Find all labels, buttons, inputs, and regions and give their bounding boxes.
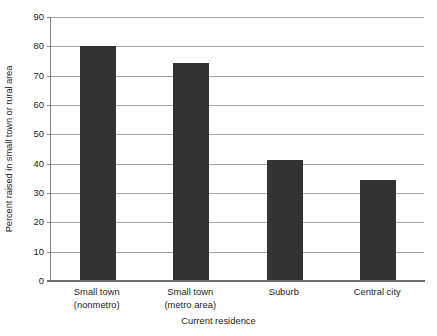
y-tick-label-40: 40	[14, 159, 44, 169]
y-tick-label-10: 10	[14, 247, 44, 257]
bar-3	[360, 180, 396, 281]
y-tick-mark-70	[47, 76, 51, 77]
y-tick-label-70: 70	[14, 71, 44, 81]
x-category-label-3: Central city	[331, 286, 425, 299]
y-tick-label-30: 30	[14, 188, 44, 198]
y-tick-mark-10	[47, 252, 51, 253]
x-category-line1: Small town	[167, 286, 213, 297]
y-tick-mark-20	[47, 222, 51, 223]
x-category-label-0: Small town(nonmetro)	[50, 286, 144, 311]
y-tick-label-50: 50	[14, 129, 44, 139]
x-category-label-1: Small town(metro area)	[144, 286, 238, 311]
y-tick-label-20: 20	[14, 217, 44, 227]
y-axis-title: Percent raised in small town or rural ar…	[2, 17, 16, 281]
y-tick-label-60: 60	[14, 100, 44, 110]
y-tick-mark-60	[47, 105, 51, 106]
y-tick-label-80: 80	[14, 41, 44, 51]
x-category-line2: (metro area)	[144, 299, 238, 312]
plot-top-border	[51, 17, 424, 18]
y-tick-mark-80	[47, 46, 51, 47]
x-category-label-2: Suburb	[237, 286, 331, 299]
x-category-line1: Small town	[74, 286, 120, 297]
bar-1	[173, 63, 209, 281]
x-axis-title: Current residence	[0, 315, 437, 326]
y-tick-mark-30	[47, 193, 51, 194]
y-tick-mark-40	[47, 164, 51, 165]
bar-2	[267, 160, 303, 281]
bar-0	[80, 46, 116, 281]
x-category-line1: Central city	[354, 286, 401, 297]
y-tick-mark-90	[47, 17, 51, 18]
y-tick-label-0: 0	[14, 276, 44, 286]
bar-chart: Percent raised in small town or rural ar…	[0, 0, 437, 336]
y-tick-label-90: 90	[14, 12, 44, 22]
x-category-line1: Suburb	[269, 286, 299, 297]
x-category-line2: (nonmetro)	[50, 299, 144, 312]
x-axis-baseline	[47, 280, 425, 282]
plot-area	[50, 17, 424, 281]
y-tick-mark-50	[47, 134, 51, 135]
